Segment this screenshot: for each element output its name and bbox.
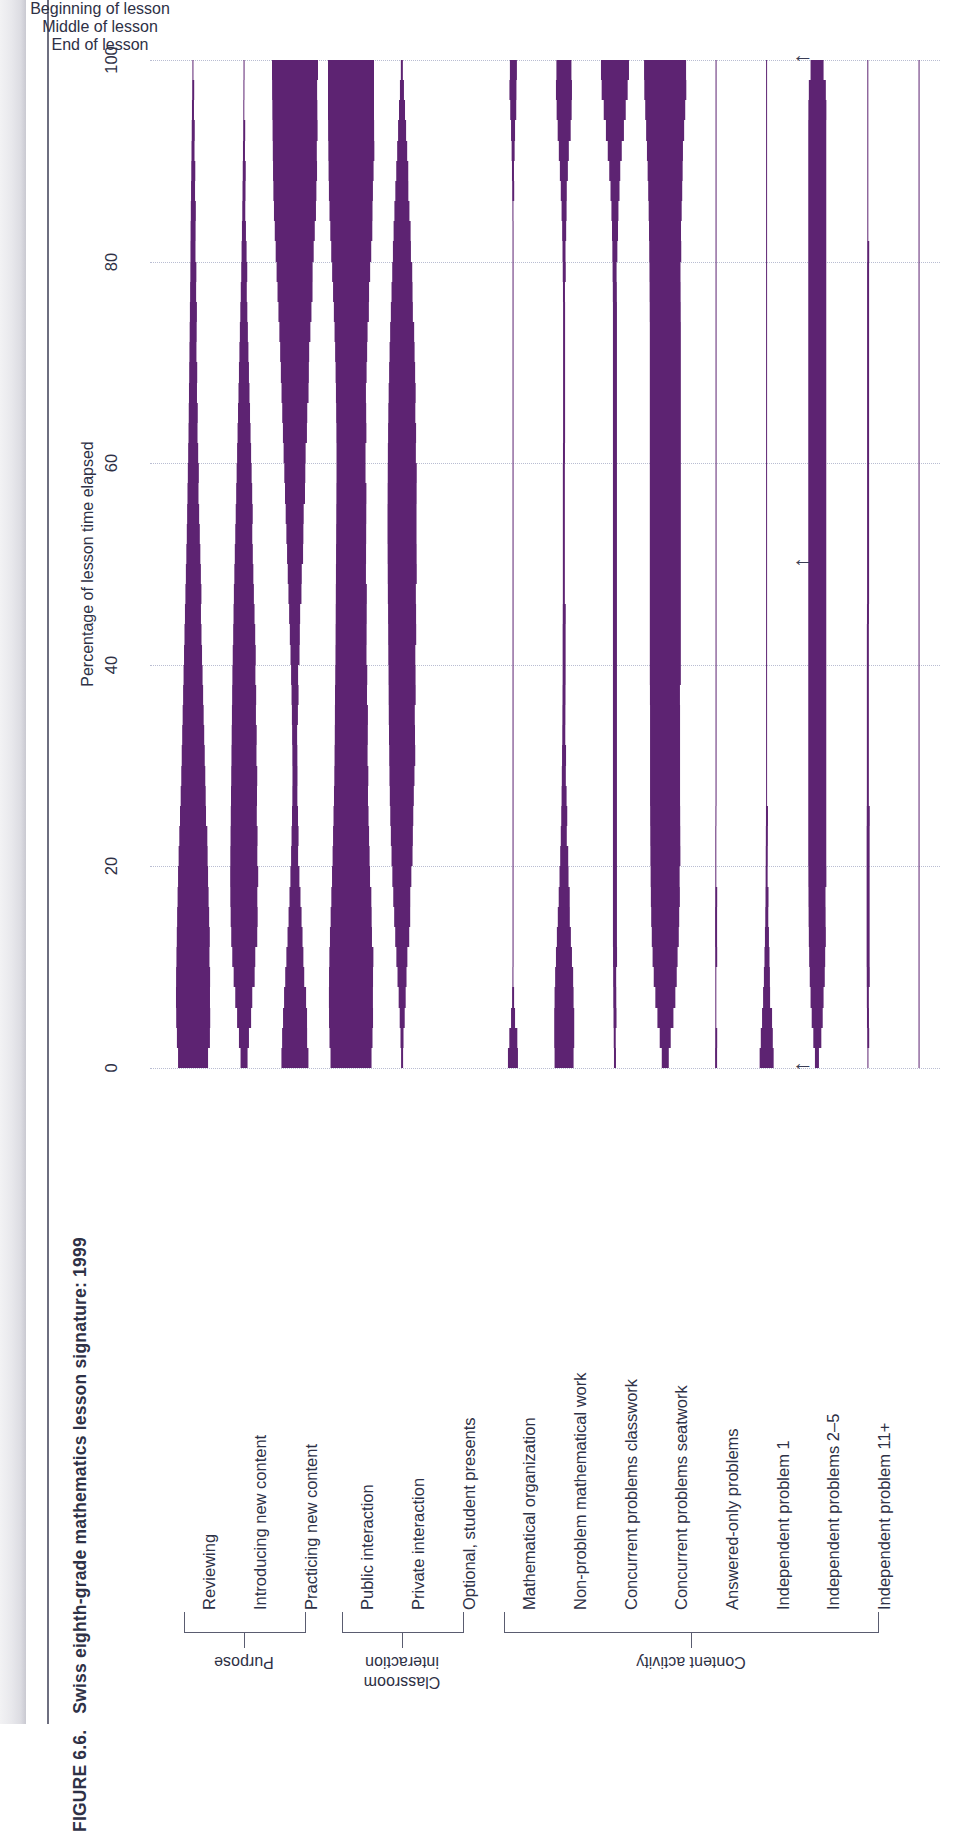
density-slice — [328, 120, 374, 140]
density-slice — [766, 665, 768, 685]
density-slice — [766, 262, 768, 282]
density-slice — [918, 302, 919, 322]
density-slice — [716, 463, 717, 483]
density-slice — [329, 181, 373, 201]
density-slice — [867, 544, 869, 564]
density-slice — [563, 564, 565, 584]
density-slice — [281, 362, 309, 382]
density-slice — [918, 604, 919, 624]
density-slice — [183, 725, 205, 745]
density-slice — [809, 685, 826, 705]
density-slice — [563, 362, 565, 382]
density-slice — [337, 463, 366, 483]
row-label: Practicing new content — [302, 1444, 324, 1610]
density-slice — [650, 786, 680, 806]
density-slice — [765, 846, 768, 866]
density-slice — [187, 544, 200, 564]
density-slice — [398, 967, 407, 987]
density-slice — [329, 987, 373, 1007]
density-slice — [388, 423, 416, 443]
density-slice — [231, 806, 257, 826]
density-slice — [563, 282, 565, 302]
density-slice — [660, 1028, 671, 1048]
density-slice — [189, 423, 198, 443]
density-slice — [513, 564, 514, 584]
density-slice — [273, 161, 317, 181]
row-label: Independent problems 2–5 — [824, 1414, 846, 1610]
density-slice — [232, 947, 255, 967]
density-slice — [766, 524, 768, 544]
density-slice — [652, 927, 678, 947]
density-slice — [652, 907, 680, 927]
density-slice — [395, 927, 409, 947]
density-slice — [279, 322, 310, 342]
density-slice — [867, 725, 869, 745]
density-slice — [716, 584, 717, 604]
density-slice — [233, 645, 256, 665]
density-slice — [715, 947, 717, 967]
signature-row — [592, 60, 638, 1068]
density-slice — [766, 826, 768, 846]
density-slice — [766, 383, 768, 403]
density-slice — [650, 504, 680, 524]
density-slice — [329, 141, 374, 161]
density-slice — [555, 1048, 574, 1068]
density-slice — [177, 907, 209, 927]
density-slice — [556, 947, 572, 967]
density-slice — [329, 161, 374, 181]
density-slice — [716, 403, 717, 423]
density-slice — [918, 201, 919, 221]
density-slice — [716, 262, 717, 282]
density-slice — [395, 181, 408, 201]
value-axis-title: Percentage of lesson time elapsed — [79, 414, 101, 714]
density-slice — [656, 987, 675, 1007]
density-slice — [716, 624, 717, 644]
density-slice — [716, 766, 717, 786]
density-slice — [809, 302, 826, 322]
density-slice — [242, 241, 247, 261]
density-slice — [330, 927, 372, 947]
density-slice — [334, 302, 368, 322]
density-slice — [184, 645, 202, 665]
density-slice — [400, 80, 404, 100]
density-slice — [918, 221, 919, 241]
density-slice — [764, 947, 769, 967]
density-slice — [918, 705, 919, 725]
density-slice — [716, 443, 717, 463]
density-slice — [918, 987, 919, 1007]
density-slice — [809, 624, 826, 644]
density-slice — [613, 1008, 616, 1028]
density-slice — [809, 322, 826, 342]
density-slice — [401, 1028, 404, 1048]
density-slice — [513, 927, 514, 947]
density-slice — [283, 1008, 307, 1028]
density-slice — [613, 362, 617, 382]
density-slice — [809, 141, 826, 161]
density-slice — [336, 584, 366, 604]
density-slice — [394, 907, 410, 927]
density-slice — [613, 745, 617, 765]
density-slice — [646, 100, 686, 120]
density-slice — [651, 887, 679, 907]
density-slice — [867, 927, 870, 947]
density-slice — [562, 786, 567, 806]
density-slice — [815, 1048, 819, 1068]
density-slice — [563, 302, 565, 322]
density-slice — [563, 403, 565, 423]
density-slice — [809, 362, 826, 382]
density-slice — [513, 544, 514, 564]
density-slice — [513, 201, 514, 221]
density-slice — [177, 927, 209, 947]
density-slice — [335, 685, 367, 705]
density-slice — [513, 262, 514, 282]
density-slice — [766, 201, 768, 221]
density-slice — [508, 1048, 518, 1068]
density-slice — [650, 443, 680, 463]
density-slice — [716, 423, 717, 443]
density-slice — [650, 584, 680, 604]
density-slice — [513, 745, 514, 765]
density-slice — [231, 826, 258, 846]
density-slice — [918, 141, 919, 161]
density-slice — [867, 887, 870, 907]
density-slice — [867, 705, 869, 725]
